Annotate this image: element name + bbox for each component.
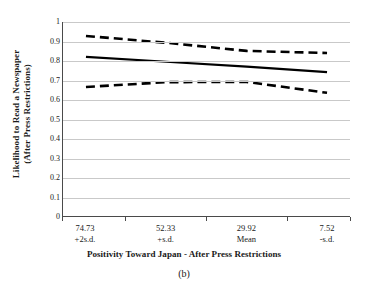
series-line-upper-confidence-band: [86, 36, 327, 53]
x-axis-tick-mark: [62, 217, 63, 221]
x-axis-tick-value: 29.92: [211, 223, 281, 234]
x-axis-tick-value: 7.52: [292, 223, 362, 234]
gridline: [63, 81, 350, 82]
y-axis-tick-label: 0.7: [38, 77, 60, 85]
x-axis-title: Positivity Toward Japan - After Press Re…: [0, 249, 368, 259]
x-axis-tick-value: 74.73: [50, 223, 120, 234]
series-line-lower-confidence-band: [86, 82, 327, 93]
x-axis-tick-mark: [287, 217, 288, 221]
x-axis-tick-sublabel: +s.d.: [131, 234, 201, 245]
gridline: [63, 42, 350, 43]
gridline: [63, 159, 350, 160]
y-axis-tick-label: 0.3: [38, 155, 60, 163]
x-axis-tick-label: 52.33+s.d.: [131, 223, 201, 245]
x-axis-tick-label: 29.92Mean: [211, 223, 281, 245]
x-axis-tick-mark: [125, 217, 126, 221]
gridline: [63, 61, 350, 62]
gridline: [63, 198, 350, 199]
y-axis-title-line2: (After Press Restrictions): [22, 64, 32, 164]
y-axis-tick-label: 0.2: [38, 174, 60, 182]
y-axis-tick-label: 1: [38, 18, 60, 26]
y-axis-tick-label: 0: [38, 213, 60, 221]
x-axis-tick-sublabel: -s.d.: [292, 234, 362, 245]
figure-panel-b: Likelihood to Read a Newspaper (After Pr…: [0, 0, 368, 292]
x-axis-tick-mark: [206, 217, 207, 221]
x-axis-tick-value: 52.33: [131, 223, 201, 234]
y-axis-tick-label: 0.5: [38, 116, 60, 124]
x-axis-tick-mark: [350, 217, 351, 221]
gridline: [63, 100, 350, 101]
figure-caption: (b): [0, 268, 368, 279]
y-axis-tick-label: 0.6: [38, 96, 60, 104]
x-axis-tick-label: 74.73+2s.d.: [50, 223, 120, 245]
x-axis-tick-sublabel: Mean: [211, 234, 281, 245]
y-axis-tick-label: 0.8: [38, 57, 60, 65]
y-axis-title-line1: Likelihood to Read a Newspaper: [11, 50, 21, 179]
gridline: [63, 120, 350, 121]
plot-area: [62, 22, 350, 217]
x-axis-tick-sublabel: +2s.d.: [50, 234, 120, 245]
y-axis-tick-label: 0.1: [38, 194, 60, 202]
y-axis-tick-label: 0.9: [38, 38, 60, 46]
gridline: [63, 178, 350, 179]
series-line-predicted-likelihood: [86, 57, 327, 72]
gridline: [63, 139, 350, 140]
x-axis-tick-label: 7.52-s.d.: [292, 223, 362, 245]
y-axis-tick-label: 0.4: [38, 135, 60, 143]
gridline: [63, 22, 350, 23]
